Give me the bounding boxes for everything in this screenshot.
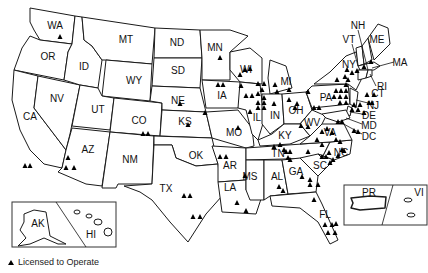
legend-label: Licensed to Operate (18, 257, 99, 267)
triangle-icon (358, 102, 363, 107)
state-label-ny: NY (342, 59, 356, 70)
state-label-ma: MA (393, 57, 408, 68)
state-label-ca: CA (23, 111, 37, 122)
state-label-oh: OH (289, 105, 304, 116)
state-label-wa: WA (47, 20, 63, 31)
state-label-nd: ND (170, 37, 184, 48)
state-label-ar: AR (223, 160, 237, 171)
triangle-icon (365, 92, 370, 97)
state-label-co: CO (132, 115, 147, 126)
state-label-me: ME (370, 34, 385, 45)
state-label-va: VA (324, 127, 337, 138)
state-label-sd: SD (171, 65, 185, 76)
state-label-az: AZ (82, 144, 95, 155)
triangle-icon (28, 163, 33, 168)
state-label-pa: PA (320, 92, 333, 103)
state-label-ri: RI (377, 81, 387, 92)
state-label-ne: NE (171, 95, 185, 106)
state-label-fl: FL (319, 209, 331, 220)
state-label-mo: MO (226, 127, 242, 138)
triangle-icon (334, 221, 339, 226)
state-label-wy: WY (126, 75, 142, 86)
state-ny (314, 52, 362, 90)
state-label-la: LA (224, 182, 237, 193)
state-label-mi: MI (280, 76, 291, 87)
inset-label-ak: AK (31, 218, 45, 229)
state-label-md: MD (361, 120, 377, 131)
legend: Licensed to Operate (8, 257, 99, 267)
state-label-tn: TN (271, 148, 284, 159)
state-label-id: ID (79, 61, 89, 72)
inset-label-hi: HI (86, 229, 96, 240)
state-label-ia: IA (217, 90, 227, 101)
state-label-or: OR (41, 51, 56, 62)
state-label-ut: UT (91, 104, 104, 115)
us-map: WAORCANVIDMTWYUTCOAZNMNDSDNEKSOKTXMNIAMO… (0, 0, 428, 273)
state-label-nm: NM (122, 154, 138, 165)
state-label-dc: DC (362, 131, 376, 142)
state-label-mt: MT (119, 34, 133, 45)
inset-label-pr: PR (362, 187, 376, 198)
state-label-wv: WV (304, 117, 320, 128)
state-label-il: IL (253, 112, 262, 123)
inset-label-vi: VI (414, 187, 423, 198)
state-label-nh: NH (351, 20, 365, 31)
triangle-icon (356, 129, 361, 134)
state-label-ok: OK (189, 150, 204, 161)
state-label-al: AL (271, 171, 284, 182)
state-label-ks: KS (178, 116, 192, 127)
state-label-ky: KY (278, 130, 292, 141)
state-label-mn: MN (207, 42, 223, 53)
state-label-nv: NV (50, 93, 64, 104)
state-label-in: IN (270, 110, 280, 121)
state-label-tx: TX (160, 183, 173, 194)
triangle-icon (23, 163, 28, 168)
triangle-icon (8, 260, 14, 265)
state-label-sc: SC (313, 160, 327, 171)
state-md (322, 110, 350, 122)
state-label-vt: VT (343, 34, 356, 45)
puerto-rico-shape (351, 196, 386, 210)
